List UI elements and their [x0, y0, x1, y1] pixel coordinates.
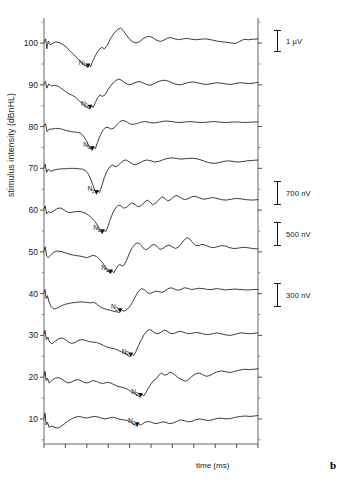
peak-arrow-icon: [94, 190, 99, 194]
peak-label-subscript: 1: [106, 268, 109, 273]
waveform-trace: [44, 330, 258, 357]
scalebar-label: 1 µV: [286, 37, 302, 46]
scalebar-label: 300 nV: [286, 291, 311, 300]
y-tick-label: 40: [29, 289, 39, 299]
y-tick-label: 100: [24, 38, 38, 48]
scalebar-label: 700 nV: [286, 189, 311, 198]
y-axis-title-text: stimulus intensity (dBnHL): [6, 93, 16, 197]
waveform-trace: [44, 288, 258, 313]
peak-label-subscript: 2: [115, 307, 118, 312]
scalebar: 300 nV: [274, 283, 311, 307]
peak-label-subscript: 2: [136, 392, 139, 397]
peak-label-subscript: 1: [92, 189, 95, 194]
panel-letter: b: [330, 459, 336, 471]
waveform-trace: [44, 369, 258, 397]
x-axis-title: time (ms): [196, 461, 229, 470]
traces-layer: [44, 28, 258, 428]
y-tick-label: 30: [29, 330, 39, 340]
peak-label-subscript: 2: [132, 421, 135, 426]
waveform-trace: [44, 238, 258, 274]
y-tick-label: 90: [29, 80, 39, 90]
peak-label-subscript: 1: [98, 228, 101, 233]
y-tick-label: 80: [29, 122, 39, 132]
peak-label-subscript: 1: [85, 103, 88, 108]
waveform-trace: [44, 28, 258, 68]
scalebar-rule-icon: [274, 181, 281, 205]
y-tick-label: 70: [29, 163, 39, 173]
y-tick-label: 10: [29, 414, 39, 424]
peak-label-subscript: 1: [88, 145, 91, 150]
scalebar: 700 nV: [274, 181, 311, 205]
scalebar-rule-icon: [274, 222, 281, 246]
scalebar: 1 µV: [274, 30, 302, 52]
y-tick-label: 20: [29, 372, 39, 382]
waveform-trace: [44, 120, 258, 150]
waveform-trace: [44, 413, 258, 428]
scalebar-rule-icon: [274, 30, 281, 52]
scalebar-rule-icon: [274, 283, 281, 307]
y-axis-title: stimulus intensity (dBnHL): [0, 0, 22, 290]
peak-label-subscript: 1: [83, 62, 86, 67]
scalebar: 500 nV: [274, 222, 311, 246]
waveform-trace: [44, 158, 258, 194]
calibration-scalebars: 1 µV700 nV500 nV300 nV: [274, 0, 345, 460]
peak-labels-layer: N1N1N1N1N1N1N2N2N2N2: [79, 59, 143, 427]
y-tick-label: 50: [29, 247, 39, 257]
peak-label-subscript: 2: [126, 351, 129, 356]
waveform-plot: 100908070605040302010 N1N1N1N1N1N1N2N2N2…: [20, 8, 270, 456]
waveform-trace: [44, 196, 258, 234]
waveform-trace: [44, 79, 258, 109]
figure-panel: stimulus intensity (dBnHL) 1009080706050…: [0, 0, 345, 489]
scalebar-label: 500 nV: [286, 230, 311, 239]
waveform-svg: 100908070605040302010 N1N1N1N1N1N1N2N2N2…: [20, 8, 270, 456]
y-tick-label: 60: [29, 205, 39, 215]
